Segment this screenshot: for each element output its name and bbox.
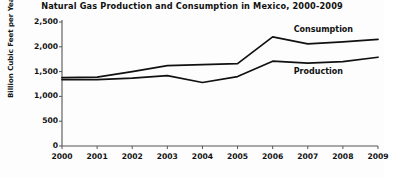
series-label-production: Production [294,67,343,76]
axis-lines [62,20,378,146]
data-series-lines [62,37,378,83]
axis-tick-marks [59,22,378,149]
series-label-consumption: Consumption [294,25,353,34]
